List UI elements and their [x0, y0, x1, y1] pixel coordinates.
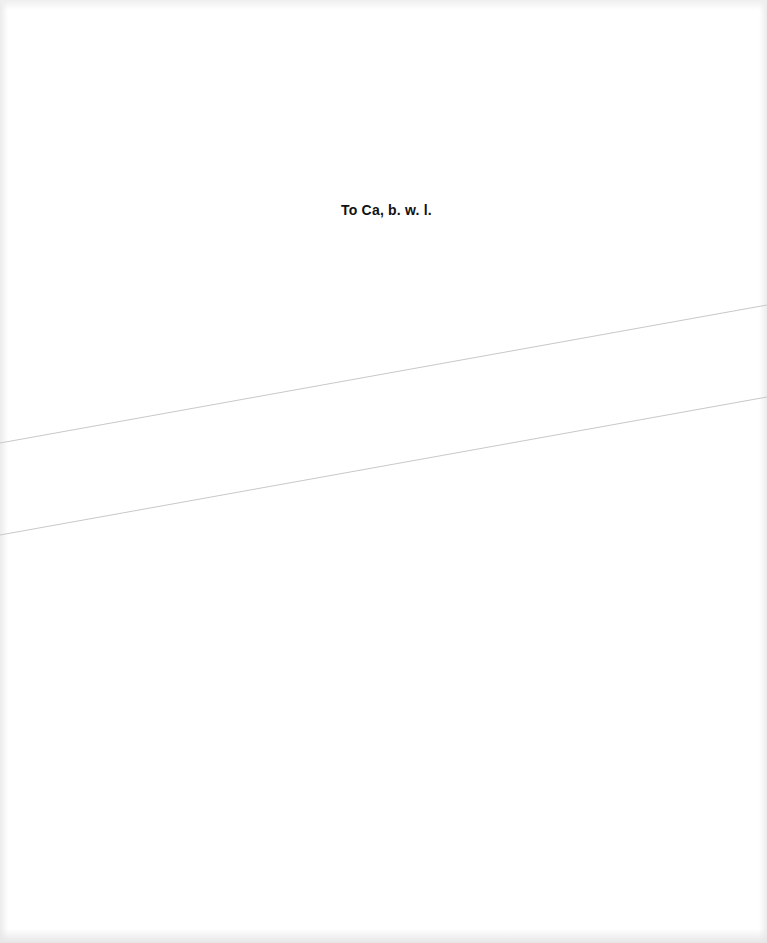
diagonal-rules — [0, 0, 767, 943]
diagonal-rule-lower — [0, 397, 767, 535]
diagonal-rule-upper — [0, 305, 767, 443]
dedication-page: To Ca, b. w. l. — [0, 0, 767, 943]
